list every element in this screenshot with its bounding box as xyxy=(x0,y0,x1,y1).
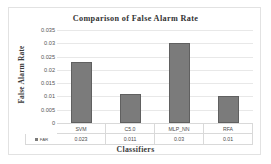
bar-series xyxy=(57,30,253,123)
data-table-header-row: SVMC5.0MLP_NNRFA xyxy=(25,123,253,134)
x-axis-title: Classifiers xyxy=(9,145,262,154)
plot-area xyxy=(57,30,253,123)
data-table-value-cell: 0.03 xyxy=(155,134,204,145)
y-axis-tick-label: 0.02 xyxy=(44,67,55,73)
y-axis-tick-label: 0.01 xyxy=(44,93,55,99)
data-table-value-row: FAR 0.0230.0110.030.01 xyxy=(25,134,253,145)
bar-mlp-nn[interactable] xyxy=(169,43,190,123)
legend-label: FAR xyxy=(40,137,49,142)
data-table-category-cell: RFA xyxy=(204,123,253,134)
legend-entry-far: FAR xyxy=(25,134,57,145)
data-table-category-cell: MLP_NN xyxy=(155,123,204,134)
data-table-value-cell: 0.023 xyxy=(57,134,106,145)
bar-slot xyxy=(106,30,155,123)
bar-c5-0[interactable] xyxy=(120,94,141,123)
bar-svm[interactable] xyxy=(71,62,92,123)
y-axis-tick-label: 0.035 xyxy=(41,27,55,33)
data-table-value-cell: 0.011 xyxy=(106,134,155,145)
y-axis-tick-labels: 0.0350.030.0250.020.0150.010.0050 xyxy=(23,30,57,123)
data-table-category-cell: SVM xyxy=(57,123,106,134)
chart-title: Comparison of False Alarm Rate xyxy=(9,14,262,23)
y-axis-tick-label: 0.005 xyxy=(41,107,55,113)
chart-card: Comparison of False Alarm Rate False Ala… xyxy=(8,7,261,155)
bar-rfa[interactable] xyxy=(218,96,239,123)
bar-slot xyxy=(204,30,253,123)
y-axis-tick-label: 0.03 xyxy=(44,40,55,46)
y-axis-tick-label: 0.015 xyxy=(41,80,55,86)
bar-slot xyxy=(155,30,204,123)
data-table-value-cell: 0.01 xyxy=(204,134,253,145)
data-table-corner-cell xyxy=(25,123,57,134)
data-table: SVMC5.0MLP_NNRFA FAR 0.0230.0110.030.01 xyxy=(25,123,253,145)
y-axis-tick-label: 0.025 xyxy=(41,54,55,60)
bar-slot xyxy=(57,30,106,123)
legend-swatch-icon xyxy=(35,138,38,141)
data-table-category-cell: C5.0 xyxy=(106,123,155,134)
